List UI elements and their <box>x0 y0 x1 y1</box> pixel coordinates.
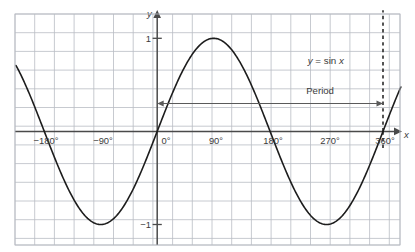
grid-vertical-lines <box>15 14 400 245</box>
period-arrow-right <box>377 100 384 106</box>
y-axis-label: y <box>146 8 153 19</box>
x-axis-arrowhead <box>394 128 402 136</box>
period-arrow-left <box>157 100 164 106</box>
x-axis-label: x <box>403 129 410 140</box>
x-tick-label-0: 0° <box>162 135 171 146</box>
y-axis <box>153 10 161 245</box>
x-tick-label-neg90: −90° <box>93 135 113 146</box>
x-tick-label-270: 270° <box>320 135 340 146</box>
curve-equation-label: y = sin x <box>307 55 345 66</box>
sine-graph-figure: −180° −90° 0° 90° 180° 270° 360° 1 −1 x … <box>0 0 415 252</box>
period-span-arrow <box>157 100 383 106</box>
grid-horizontal-lines <box>15 14 400 245</box>
y-tick-label-1: 1 <box>146 33 151 44</box>
x-tick-label-360: 360° <box>375 135 395 146</box>
period-label: Period <box>306 85 334 96</box>
plot-svg: −180° −90° 0° 90° 180° 270° 360° 1 −1 x … <box>0 0 415 252</box>
grid-frame <box>15 14 400 245</box>
x-tick-label-neg180: −180° <box>34 135 59 146</box>
x-tick-label-90: 90° <box>209 135 223 146</box>
x-tick-label-180: 180° <box>263 135 283 146</box>
curve-equation-x: x <box>338 55 345 66</box>
curve-equation-operator: = sin <box>313 55 339 66</box>
y-tick-label-neg1: −1 <box>140 219 151 230</box>
